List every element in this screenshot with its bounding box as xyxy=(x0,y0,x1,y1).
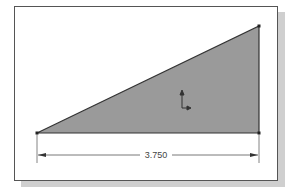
sketch-canvas: 3.750 xyxy=(0,0,296,196)
arrowhead-left-icon xyxy=(38,153,46,157)
vertex-point[interactable] xyxy=(258,25,261,28)
arrowhead-right-icon xyxy=(250,153,258,157)
dimension-value[interactable]: 3.750 xyxy=(145,150,168,160)
triangle-sketch[interactable] xyxy=(37,26,259,133)
